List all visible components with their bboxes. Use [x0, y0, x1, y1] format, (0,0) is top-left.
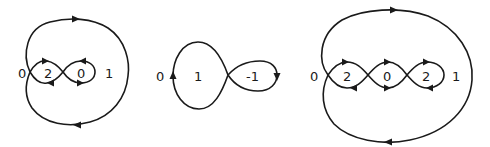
arrow-left-icon — [426, 85, 433, 92]
winding-number-figure: 0 2 0 1 0 1 -1 0 2 0 2 1 — [0, 0, 490, 147]
arrow-left-icon — [384, 139, 392, 146]
region-label: 0 — [383, 69, 391, 84]
curve-2: 0 1 -1 — [156, 42, 281, 109]
region-label: 2 — [343, 69, 351, 84]
region-label: 0 — [77, 66, 85, 81]
region-label: 2 — [44, 66, 52, 81]
arrow-down-icon — [274, 73, 281, 81]
region-label: -1 — [246, 69, 259, 84]
region-label: 1 — [452, 69, 460, 84]
region-label: 0 — [156, 69, 164, 84]
region-label: 2 — [422, 69, 430, 84]
region-label: 1 — [194, 69, 202, 84]
region-label: 1 — [105, 66, 113, 81]
arrow-left-icon — [79, 58, 86, 65]
arrow-right-icon — [72, 16, 80, 23]
arrow-right-icon — [390, 7, 398, 14]
region-label: 0 — [310, 69, 318, 84]
arrow-right-icon — [384, 59, 391, 66]
curve-1: 0 2 0 1 — [18, 16, 128, 129]
arrow-left-icon — [73, 122, 81, 129]
region-label: 0 — [18, 66, 26, 81]
arrow-up-icon — [170, 71, 177, 79]
arrow-left-icon — [350, 85, 357, 92]
arrow-right-icon — [384, 85, 391, 92]
arrow-right-icon — [342, 59, 349, 66]
arrow-right-icon — [42, 58, 49, 65]
arrow-right-icon — [423, 59, 430, 66]
curve-3: 0 2 0 2 1 — [310, 7, 472, 146]
